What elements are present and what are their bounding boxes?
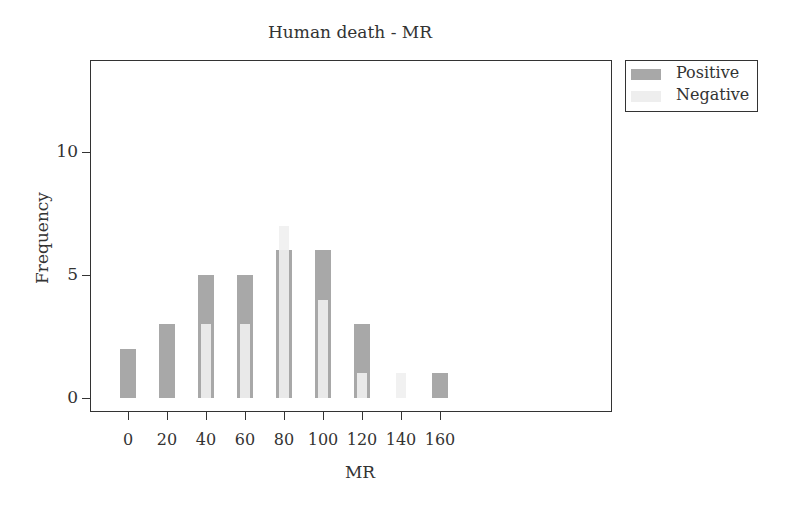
bar-positive	[432, 373, 448, 398]
y-tick	[82, 152, 90, 153]
y-tick-label: 0	[40, 387, 78, 407]
bar-positive	[159, 324, 175, 398]
legend-label-positive: Positive	[676, 63, 739, 82]
bar-negative	[396, 373, 406, 398]
x-tick	[245, 412, 246, 420]
x-tick	[362, 412, 363, 420]
bar-negative	[318, 300, 328, 398]
x-tick-label: 160	[415, 430, 465, 449]
y-tick	[82, 275, 90, 276]
x-axis-title: MR	[330, 462, 390, 482]
x-tick	[206, 412, 207, 420]
x-tick	[128, 412, 129, 420]
x-tick	[440, 412, 441, 420]
bar-positive	[120, 349, 136, 398]
y-tick	[82, 398, 90, 399]
y-tick-label: 10	[40, 141, 78, 161]
legend-swatch-positive	[631, 69, 661, 80]
legend: Positive Negative	[625, 60, 758, 112]
x-tick	[284, 412, 285, 420]
x-tick	[401, 412, 402, 420]
x-tick	[323, 412, 324, 420]
chart-title: Human death - MR	[0, 22, 700, 42]
legend-swatch-negative	[631, 91, 661, 102]
bar-negative	[357, 373, 367, 398]
x-tick	[167, 412, 168, 420]
bar-negative	[201, 324, 211, 398]
bar-negative	[279, 226, 289, 398]
legend-label-negative: Negative	[676, 85, 749, 104]
y-axis-title: Frequency	[32, 188, 52, 288]
bar-negative	[240, 324, 250, 398]
